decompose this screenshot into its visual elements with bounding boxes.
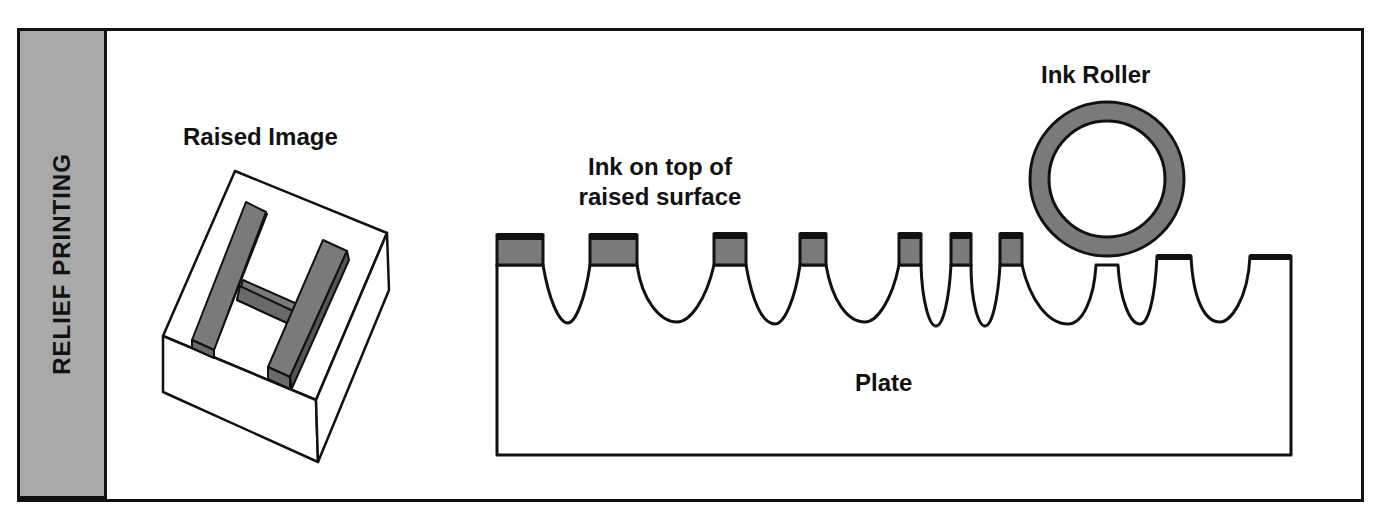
plate-outline xyxy=(497,256,1291,455)
ink-on-top-line-1: Ink on top of xyxy=(525,152,795,182)
raised-image-label: Raised Image xyxy=(183,122,338,152)
plate-label: Plate xyxy=(855,368,912,398)
diagram-canvas xyxy=(0,0,1377,519)
ink-layers xyxy=(497,234,1022,265)
ink-on-top-line-2: raised surface xyxy=(525,182,795,212)
roller-core xyxy=(1049,121,1165,237)
uninked-top xyxy=(1250,254,1291,260)
ink-roller xyxy=(1030,102,1184,256)
ink-roller-label: Ink Roller xyxy=(1041,60,1150,90)
uninked-top xyxy=(1157,254,1191,260)
relief-plate xyxy=(497,232,1291,455)
ink-on-top-label: Ink on top of raised surface xyxy=(525,152,795,212)
